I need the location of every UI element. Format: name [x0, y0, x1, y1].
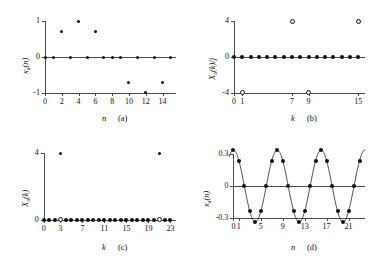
panel-b-zero-point [340, 55, 344, 59]
c-yticklabel: 4 [6, 148, 39, 157]
panel-c-zero-point [86, 218, 90, 222]
panel-b-tag: (b) [307, 113, 317, 123]
panel-a-tag: (a) [118, 113, 127, 123]
panel-b-zero-point [307, 55, 311, 59]
a-xticklabel: 14 [149, 97, 177, 106]
b-xticklabel: 9 [295, 97, 323, 106]
panel-a-data-point [136, 56, 139, 59]
a-xtick [45, 93, 46, 96]
a-yticklabel: 1 [7, 16, 40, 25]
panel-a-data-point [44, 56, 47, 59]
c-ytick [41, 153, 44, 154]
panel-c-zero-point [58, 217, 63, 222]
panel-b-zero-point [315, 55, 319, 59]
figure-canvas: xa(n) n (a) 02468101214-101 Xa(k)/j k (b… [0, 0, 377, 259]
panel-b-xlabel: k [291, 113, 295, 123]
panel-a-xlabel: n [102, 113, 106, 123]
panel-a-data-point [153, 56, 156, 59]
panel-b-zero-point [282, 55, 286, 59]
panel-c-zero-point [69, 218, 73, 222]
panel-a-data-point [161, 81, 164, 84]
b-yticklabel: 0 [196, 52, 229, 61]
a-xtick [95, 93, 96, 96]
a-xtick [112, 93, 113, 96]
panel-c-zero-point [47, 218, 51, 222]
panel-a-data-point [102, 56, 105, 59]
panel-d-data-point [325, 159, 329, 163]
panel-d-sinusoid-curve [189, 129, 377, 259]
panel-c-zero-point [163, 218, 167, 222]
panel-c-zero-point [119, 218, 123, 222]
panel-b-ylabel: Xa(k)/j [207, 58, 218, 80]
panel-c-tag: (c) [118, 242, 127, 252]
a-xtick [163, 93, 164, 96]
a-x-axis-line [45, 93, 176, 94]
a-yticklabel: 0 [7, 52, 40, 61]
a-ytick [42, 93, 45, 94]
panel-c-zero-point [141, 218, 145, 222]
b-xtick [292, 93, 293, 96]
b-yticklabel: -4 [196, 88, 229, 97]
panel-d-data-point [358, 159, 362, 163]
a-xtick [129, 93, 130, 96]
panel-b-zero-point [232, 55, 236, 59]
panel-b: Xa(k)/j k (b) 017915-404 [189, 0, 377, 130]
panel-c-zero-point [53, 218, 57, 222]
panel-c-zero-point [108, 218, 112, 222]
a-xtick [62, 93, 63, 96]
panel-c-plot-area [40, 145, 176, 227]
panel-d-data-point [237, 159, 241, 163]
panel-c-zero-point [152, 218, 156, 222]
b-xticklabel: 1 [228, 97, 256, 106]
panel-b-data-point [240, 90, 245, 95]
b-xtick [358, 93, 359, 96]
panel-c-peak-point [158, 152, 161, 155]
panel-b-data-point [290, 19, 295, 24]
panel-a-data-point [111, 56, 114, 59]
panel-b-zero-point [257, 55, 261, 59]
c-yticklabel: 0 [6, 215, 39, 224]
panel-d-data-point [352, 184, 356, 188]
b-yticklabel: 4 [196, 16, 229, 25]
panel-c-zero-point [97, 218, 101, 222]
panel-b-data-point [356, 19, 361, 24]
panel-a-data-point [69, 56, 72, 59]
panel-a-data-point [86, 56, 89, 59]
panel-b-zero-point [290, 55, 294, 59]
a-ytick [42, 21, 45, 22]
panel-b-zero-point [249, 55, 253, 59]
b-xticklabel: 15 [344, 97, 372, 106]
panel-d-data-point [314, 159, 318, 163]
panel-a-data-point [119, 56, 122, 59]
b-ytick [231, 21, 234, 22]
panel-d-data-point [270, 159, 274, 163]
panel-a-data-point [77, 20, 80, 23]
c-xticklabel: 23 [156, 224, 184, 233]
panel-c-zero-point [75, 218, 79, 222]
panel-a: xa(n) n (a) 02468101214-101 [0, 0, 188, 130]
panel-d-data-point [341, 220, 345, 224]
panel-c-peak-point [59, 152, 62, 155]
panel-c-xlabel: k [102, 242, 106, 252]
c-y-axis-line [44, 153, 45, 219]
a-xtick [79, 93, 80, 96]
panel-c-ylabel: Xa(k) [20, 190, 31, 207]
b-x-axis-line [234, 93, 365, 94]
panel-c-zero-point [130, 218, 134, 222]
panel-a-data-point [52, 56, 55, 59]
b-xtick [234, 93, 235, 96]
panel-d: xa(n) n (d) 0159131721-0.300.3 [189, 129, 377, 259]
panel-c: Xa(k) k (c) 0371115192304 [0, 129, 188, 259]
panel-c-zero-point [64, 218, 68, 222]
b-ytick [231, 93, 234, 94]
a-yticklabel: -1 [7, 88, 40, 97]
panel-d-data-point [281, 159, 285, 163]
panel-c-zero-point [157, 217, 162, 222]
panel-c-zero-point [42, 218, 46, 222]
